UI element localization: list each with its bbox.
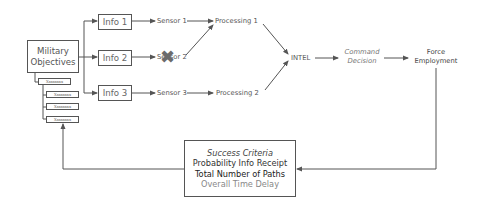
objective-sub-item: Xxxxxxxx — [38, 78, 71, 85]
command-decision-line1: Command — [342, 48, 382, 57]
info-1-box: Info 1 — [98, 14, 132, 30]
force-employment-label: Force Employment — [410, 48, 462, 66]
info-3-box: Info 3 — [98, 85, 132, 101]
force-employment-line2: Employment — [410, 57, 462, 66]
sensor-1-label: Sensor 1 — [157, 18, 187, 25]
force-employment-line1: Force — [410, 48, 462, 57]
processing-2-label: Processing 2 — [216, 90, 259, 97]
objective-sub-item: Xxxxxxxx — [46, 116, 79, 123]
success-criteria-box: Success Criteria Probability Info Receip… — [184, 140, 296, 197]
military-objectives-label-line1: Military — [30, 46, 75, 57]
failed-sensor-x-icon: ✖ — [160, 48, 175, 66]
success-criteria-item: Total Number of Paths — [195, 169, 285, 179]
objective-sub-item: Xxxxxxxx — [46, 91, 79, 98]
command-decision-line2: Decision — [342, 57, 382, 66]
info-2-box: Info 2 — [98, 50, 132, 66]
success-criteria-item: Overall Time Delay — [201, 179, 279, 189]
command-decision-label: Command Decision — [342, 48, 382, 66]
sensor-3-label: Sensor 3 — [157, 90, 187, 97]
intel-label: INTEL — [291, 55, 310, 62]
objective-sub-item: Xxxxxxxx — [46, 103, 79, 110]
military-objectives-box: Military Objectives — [27, 40, 79, 73]
success-criteria-item: Probability Info Receipt — [193, 158, 288, 168]
military-objectives-label-line2: Objectives — [30, 57, 75, 68]
success-criteria-title: Success Criteria — [207, 148, 273, 158]
processing-1-label: Processing 1 — [215, 18, 258, 25]
